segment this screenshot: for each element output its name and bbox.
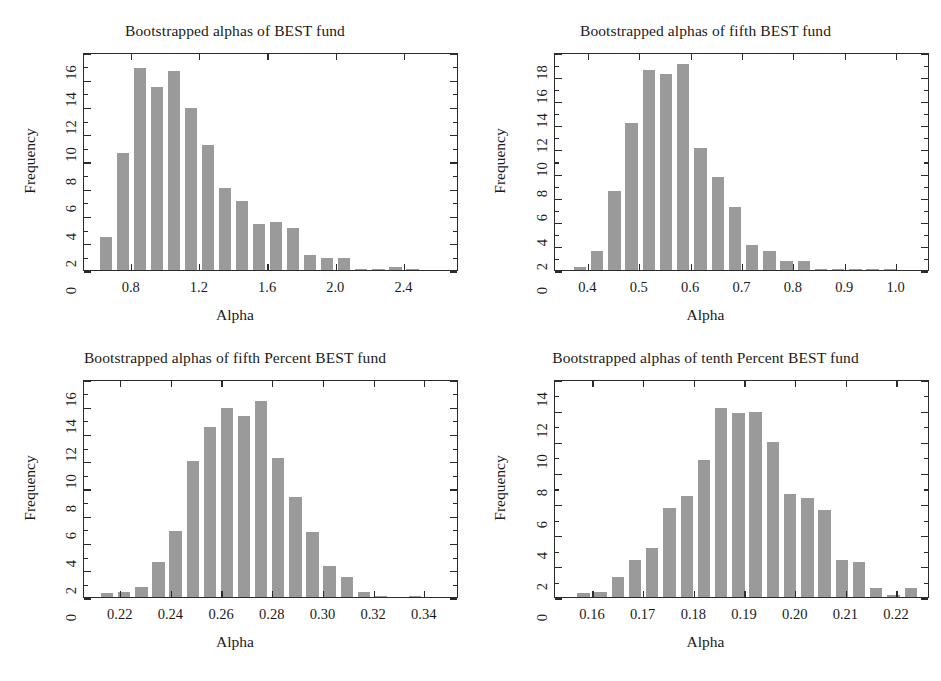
y-axis-tick — [555, 102, 562, 103]
histogram-bar — [152, 562, 164, 597]
histogram-bar — [321, 258, 333, 270]
histogram-bar — [375, 596, 387, 597]
y-axis-tick-right — [450, 53, 457, 54]
plot-area — [83, 380, 458, 598]
y-axis-tick-label: 18 — [534, 53, 551, 93]
x-axis-tick-top — [323, 381, 324, 387]
histogram-bar — [577, 593, 589, 597]
histogram-bar — [694, 148, 706, 270]
y-axis-minor-tick — [555, 187, 559, 188]
x-axis-tick — [120, 591, 121, 597]
histogram-bar — [608, 191, 620, 270]
histogram-bar — [784, 494, 796, 597]
y-axis-minor-tick — [84, 176, 88, 177]
histogram-bar — [594, 592, 606, 597]
x-axis-tick — [592, 591, 593, 597]
y-axis-tick-right — [921, 412, 928, 413]
chart-panel-1: Bootstrapped alphas of BEST fund02468101… — [0, 0, 470, 340]
histogram-bar — [323, 566, 335, 597]
x-axis-tick-label: 2.4 — [394, 279, 412, 296]
y-axis-minor-tick — [84, 558, 88, 559]
histogram-bar — [625, 123, 637, 270]
y-axis-tick-right — [921, 247, 928, 248]
y-axis-tick-right — [921, 380, 928, 381]
histogram-bar — [849, 269, 861, 270]
y-axis-tick — [555, 199, 562, 200]
chart-title: Bootstrapped alphas of fifth Percent BES… — [0, 349, 470, 367]
y-axis-tick-right — [921, 199, 928, 200]
y-axis-minor-tick-right — [924, 211, 928, 212]
y-axis-minor-tick — [84, 394, 88, 395]
y-axis-minor-tick — [84, 67, 88, 68]
x-axis-tick-top — [171, 381, 172, 387]
y-axis-minor-tick-right — [924, 138, 928, 139]
y-axis-tick — [84, 571, 91, 572]
y-axis-tick-right — [450, 380, 457, 381]
y-axis-tick-right — [921, 223, 928, 224]
y-axis-minor-tick-right — [924, 259, 928, 260]
y-axis-tick-right — [450, 598, 457, 599]
x-axis-tick-label: 1.6 — [258, 279, 276, 296]
histogram-bar — [905, 588, 917, 597]
histogram-bar — [801, 498, 813, 597]
y-axis-minor-tick — [555, 138, 559, 139]
x-axis-tick — [896, 591, 897, 597]
chart-title: Bootstrapped alphas of fifth BEST fund — [470, 22, 941, 40]
y-axis-tick-right — [450, 517, 457, 518]
x-axis-tick — [323, 591, 324, 597]
x-axis-tick-label: 0.34 — [411, 606, 436, 623]
y-axis-tick — [84, 53, 91, 54]
histogram-bar — [134, 68, 146, 270]
histogram-bar — [643, 70, 655, 270]
y-axis-tick — [555, 474, 562, 475]
histogram-bar — [202, 145, 214, 270]
x-axis-tick-label: 0.8 — [122, 279, 140, 296]
y-axis-minor-tick — [555, 114, 559, 115]
x-axis-tick-label: 0.18 — [681, 606, 706, 623]
histogram-bar — [253, 224, 265, 270]
y-axis-minor-tick-right — [924, 235, 928, 236]
x-axis-tick-label: 0.19 — [731, 606, 756, 623]
y-axis-minor-tick-right — [453, 558, 457, 559]
histogram-bar — [169, 531, 181, 597]
y-axis-tick-right — [921, 474, 928, 475]
histogram-bar — [255, 401, 267, 597]
histogram-bar — [338, 258, 350, 270]
y-axis-minor-tick-right — [453, 394, 457, 395]
y-axis-tick — [84, 190, 91, 191]
histogram-bar — [746, 245, 758, 270]
x-axis-tick-top — [199, 54, 200, 60]
y-axis-minor-tick-right — [453, 122, 457, 123]
y-axis-tick-right — [450, 244, 457, 245]
x-axis-tick-label: 0.17 — [630, 606, 655, 623]
x-axis-tick-top — [846, 381, 847, 387]
y-axis-tick — [555, 505, 562, 506]
histogram-bar — [287, 228, 299, 270]
y-axis-minor-tick — [555, 90, 559, 91]
y-axis-minor-tick-right — [453, 203, 457, 204]
x-axis-tick-label: 0.22 — [107, 606, 132, 623]
histogram-bar — [185, 108, 197, 270]
x-axis-tick-top — [845, 54, 846, 60]
y-axis-tick-right — [450, 435, 457, 436]
x-axis-tick-top — [404, 54, 405, 60]
y-axis-minor-tick — [555, 211, 559, 212]
x-axis-tick — [171, 591, 172, 597]
histogram-bar — [749, 412, 761, 597]
x-axis-tick-top — [795, 381, 796, 387]
plot-area — [554, 53, 929, 271]
x-axis-tick — [846, 591, 847, 597]
chart-panel-2: Bootstrapped alphas of fifth BEST fund02… — [470, 0, 941, 340]
histogram-bar — [270, 222, 282, 270]
y-axis-tick-right — [921, 175, 928, 176]
y-axis-minor-tick-right — [453, 449, 457, 450]
histogram-bar — [101, 593, 113, 597]
y-axis-tick — [84, 462, 91, 463]
figure-grid: Bootstrapped alphas of BEST fund02468101… — [0, 0, 941, 681]
y-axis-tick-right — [450, 190, 457, 191]
histogram-bar — [219, 188, 231, 270]
y-axis-tick-right — [450, 81, 457, 82]
y-axis-tick — [84, 598, 91, 599]
y-axis-tick — [555, 567, 562, 568]
y-axis-tick — [555, 443, 562, 444]
